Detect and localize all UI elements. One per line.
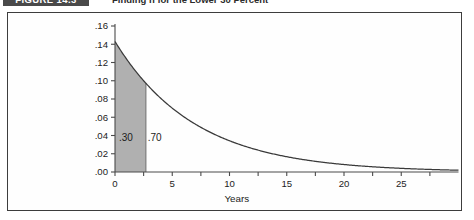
x-axis-tick-label: 10 bbox=[224, 178, 235, 189]
chart-plot-area: .16.14.12.10.08.06.04.02.000510152025.30… bbox=[0, 0, 474, 220]
y-axis-tick-label: .16 bbox=[95, 20, 108, 31]
x-axis-tick-label: 20 bbox=[339, 178, 350, 189]
y-axis-tick-label: .02 bbox=[95, 148, 108, 159]
unshaded-region-label: .70 bbox=[148, 132, 162, 143]
x-axis-tick-label: 15 bbox=[281, 178, 292, 189]
x-axis-tick-label: 0 bbox=[112, 178, 117, 189]
shaded-probability-region bbox=[115, 42, 146, 172]
x-axis-title: Years bbox=[224, 193, 249, 204]
y-axis-tick-label: .00 bbox=[95, 166, 108, 177]
y-axis-tick-label: .10 bbox=[95, 75, 108, 86]
y-axis-tick-label: .12 bbox=[95, 57, 108, 68]
x-axis-tick-label: 25 bbox=[396, 178, 407, 189]
x-axis-tick-label: 5 bbox=[170, 178, 175, 189]
y-axis-tick-label: .06 bbox=[95, 112, 108, 123]
figure-screenshot: FIGURE 14.3 Finding h for the Lower 30 P… bbox=[0, 0, 474, 220]
y-axis-tick-label: .14 bbox=[95, 39, 109, 50]
y-axis-tick-label: .04 bbox=[95, 130, 109, 141]
density-curve bbox=[115, 42, 459, 171]
exponential-density-chart: .16.14.12.10.08.06.04.02.000510152025.30… bbox=[0, 0, 474, 220]
shaded-region-label: .30 bbox=[119, 132, 133, 143]
y-axis-tick-label: .08 bbox=[95, 93, 108, 104]
